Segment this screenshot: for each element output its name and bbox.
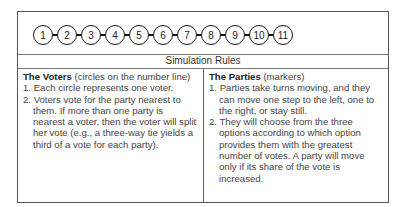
voters-rule-2: 2. Voters vote for the party nearest to … (23, 94, 197, 150)
parties-rules: The Parties (markers) 1. Parties take tu… (204, 69, 388, 203)
voters-rule-1: 1. Each circle represents one voter. (23, 82, 197, 93)
voter-circle: 5 (129, 25, 149, 45)
voters-heading: The Voters (circles on the number line) (23, 71, 197, 82)
voter-circle: 11 (273, 25, 293, 45)
voter-circle: 9 (225, 25, 245, 45)
voter-circle: 10 (249, 25, 269, 45)
voter-circle: 1 (33, 25, 53, 45)
number-line: 1 2 3 4 5 6 7 8 9 10 11 (18, 12, 388, 55)
simulation-panel: 1 2 3 4 5 6 7 8 9 10 11 Simulation Rules… (17, 11, 389, 203)
voter-circle: 2 (57, 25, 77, 45)
voter-circles: 1 2 3 4 5 6 7 8 9 10 11 (33, 25, 293, 45)
voter-circle: 6 (153, 25, 173, 45)
parties-heading: The Parties (markers) (209, 71, 382, 82)
voter-circle: 8 (201, 25, 221, 45)
parties-rule-1: 1. Parties take turns moving, and they c… (209, 82, 382, 116)
voters-rules: The Voters (circles on the number line) … (18, 69, 204, 203)
voter-circle: 3 (81, 25, 101, 45)
voter-circle: 7 (177, 25, 197, 45)
rules-title: Simulation Rules (18, 54, 388, 69)
parties-rule-2: 2. They will choose from the three optio… (209, 116, 382, 184)
voter-circle: 4 (105, 25, 125, 45)
